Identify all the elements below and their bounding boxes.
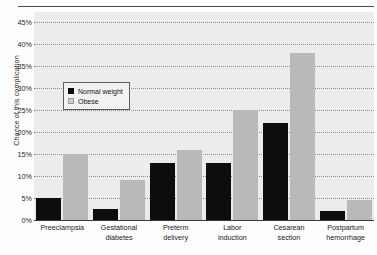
x-axis-tick-label: Labor: [204, 223, 261, 233]
obese-swatch-icon: [68, 98, 74, 104]
x-axis-category: Laborinduction: [204, 223, 261, 242]
y-axis-tick-label: 5%: [0, 194, 32, 203]
bar: [177, 150, 202, 220]
y-axis-tick-label: 35%: [0, 62, 32, 71]
y-axis-tick-label: 45%: [0, 18, 32, 27]
bar: [63, 154, 88, 220]
y-axis-tick-label: 40%: [0, 40, 32, 49]
y-axis-tick-label: 0%: [0, 216, 32, 225]
x-axis-tick-label: delivery: [147, 233, 204, 243]
x-axis-tick-label: Gestational: [91, 223, 148, 233]
x-axis-line: [34, 220, 374, 221]
bar: [320, 211, 345, 220]
bar: [93, 209, 118, 220]
x-axis-category: Preeclampsia: [34, 223, 91, 233]
x-axis-tick-label: Preterm: [147, 223, 204, 233]
x-axis-tick-label: hemorrhage: [317, 233, 374, 243]
x-axis-tick-label: section: [261, 233, 318, 243]
chart-figure: Chance of this complication 0%5%10%15%20…: [0, 0, 377, 255]
bar: [36, 198, 61, 220]
x-axis-category: Pretermdelivery: [147, 223, 204, 242]
y-axis-tick-label: 15%: [0, 150, 32, 159]
y-axis-tick-label: 30%: [0, 84, 32, 93]
legend-label-obese: Obese: [78, 98, 99, 105]
x-axis-tick-label: Cesarean: [261, 223, 318, 233]
x-axis-tick-label: diabetes: [91, 233, 148, 243]
clipped-caption: [0, 0, 377, 5]
y-axis-tick-label: 25%: [0, 106, 32, 115]
x-axis-category: Postpartumhemorrhage: [317, 223, 374, 242]
legend-item-obese: Obese: [68, 96, 123, 106]
top-rule: [18, 6, 374, 7]
y-axis-tick-label: 20%: [0, 128, 32, 137]
bar: [206, 163, 231, 220]
x-axis-tick-label: Postpartum: [317, 223, 374, 233]
x-axis-labels: PreeclampsiaGestationaldiabetesPretermde…: [34, 223, 374, 253]
plot-area: [34, 12, 374, 220]
y-axis-tick-label: 10%: [0, 172, 32, 181]
bar: [233, 110, 258, 220]
bar: [120, 180, 145, 220]
legend-item-normal-weight: Normal weight: [68, 86, 123, 96]
bar: [347, 200, 372, 220]
normal-weight-swatch-icon: [68, 88, 74, 94]
bar: [263, 123, 288, 220]
bar: [150, 163, 175, 220]
bars-layer: [34, 12, 374, 220]
x-axis-category: Cesareansection: [261, 223, 318, 242]
legend: Normal weight Obese: [63, 82, 130, 110]
x-axis-category: Gestationaldiabetes: [91, 223, 148, 242]
legend-label-normal-weight: Normal weight: [78, 88, 123, 95]
x-axis-tick-label: Preeclampsia: [34, 223, 91, 233]
x-axis-tick-label: induction: [204, 233, 261, 243]
bar: [290, 53, 315, 220]
